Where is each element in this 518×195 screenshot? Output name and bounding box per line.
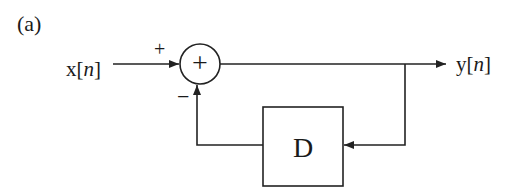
feedback-to-delay [344, 64, 405, 145]
input-label-var: n [84, 57, 95, 81]
input-label: x[n] [66, 57, 101, 81]
output-label-main: y[ [456, 52, 474, 76]
summing-junction-symbol: + [192, 47, 208, 78]
input-label-main: x[ [66, 57, 84, 81]
minus-sign-feedback: − [177, 84, 189, 109]
panel-label: (a) [17, 11, 41, 36]
output-label-var: n [474, 52, 485, 76]
plus-sign-input: + [154, 38, 165, 60]
output-label: y[n] [456, 52, 491, 76]
output-label-close: ] [484, 52, 491, 76]
delay-block-label: D [293, 132, 313, 163]
feedback-to-summer [197, 85, 263, 145]
block-diagram: (a) x[n] + + y[n] D − [0, 0, 518, 195]
input-label-close: ] [94, 57, 101, 81]
